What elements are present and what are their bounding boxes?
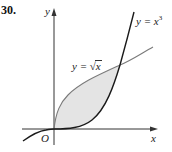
y-axis-label: y <box>45 6 50 17</box>
sqrt-label-var: x <box>95 60 102 72</box>
y-axis-arrow-icon <box>52 8 57 16</box>
cube-label-exponent: 3 <box>159 14 163 22</box>
x-axis-arrow-icon <box>150 127 158 132</box>
sqrt-curve-label: y = √x <box>72 60 102 72</box>
cube-curve-label: y = x3 <box>136 15 162 27</box>
sqrt-label-prefix: y = <box>72 60 90 72</box>
cube-label-prefix: y = <box>136 15 154 27</box>
problem-number: 30. <box>1 4 16 16</box>
x-axis-label: x <box>151 133 156 144</box>
origin-label: O <box>41 133 49 144</box>
shaded-region <box>54 65 120 129</box>
